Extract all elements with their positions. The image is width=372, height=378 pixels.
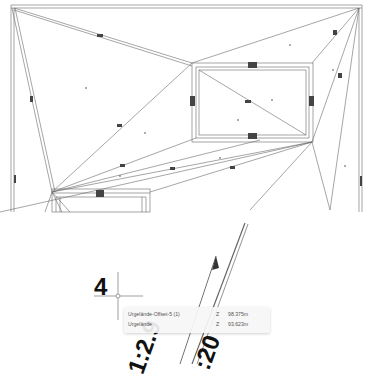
surface-name: Urgelände-Offset-5 (1) <box>128 311 216 317</box>
elevation-value: 93.623m <box>228 321 248 327</box>
surface-name: Urgelände <box>128 321 216 327</box>
elevation-value: 98.375m <box>228 311 248 317</box>
tooltip-row: Urgelände-Offset-5 (1) Z 98.375m <box>128 309 266 319</box>
elevation-tooltip: Urgelände-Offset-5 (1) Z 98.375m Urgelän… <box>124 307 270 333</box>
axis-label: Z <box>216 321 228 327</box>
annotation-marks <box>14 30 362 197</box>
direction-arrow-icon <box>212 256 219 270</box>
point-number-label: 4 <box>94 273 107 301</box>
site-plan-lines <box>0 5 362 212</box>
tooltip-row: Urgelände Z 93.623m <box>128 319 266 329</box>
axis-label: Z <box>216 311 228 317</box>
